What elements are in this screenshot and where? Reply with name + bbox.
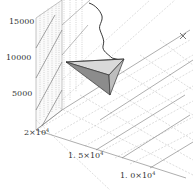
z-tick-10000: 10000 <box>6 54 31 62</box>
x-tick-2e4: 2×104 <box>24 129 49 137</box>
z-tick-15000: 15000 <box>9 18 34 26</box>
z-tick-5000: 5000 <box>12 90 32 98</box>
x-tick-1.0e4-base: 1. 0×10 <box>120 171 152 180</box>
x-tick-1.0e4: 1. 0×104 <box>120 172 155 180</box>
x-tick-1.5e4-exp: 4 <box>100 150 103 156</box>
x-tick-2e4-base: 2×10 <box>24 128 46 137</box>
x-tick-1.0e4-exp: 4 <box>152 170 155 176</box>
x-tick-2e4-exp: 4 <box>46 127 49 133</box>
x-tick-1.5e4: 1. 5×104 <box>68 152 103 160</box>
back-wall-2 <box>62 0 90 108</box>
x-tick-1.5e4-base: 1. 5×10 <box>68 151 100 160</box>
back-wall <box>36 0 62 130</box>
